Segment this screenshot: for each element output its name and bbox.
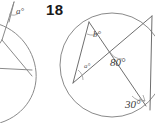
main-circle <box>60 13 155 117</box>
angle-a-label: a° <box>84 62 91 70</box>
problem-number: 18 <box>46 2 64 17</box>
left-chord-2 <box>9 2 14 22</box>
angle-30-label: 30° <box>124 98 141 110</box>
angle-b-label: b° <box>93 29 102 39</box>
left-chord-5 <box>0 40 2 58</box>
left-partial-figure: a° <box>0 2 36 123</box>
angle-80-label: 80° <box>110 56 126 68</box>
left-angle-a-label: a° <box>16 6 25 16</box>
left-circle-arc <box>0 22 36 123</box>
geometry-figure-svg: a° b° a° 80° <box>0 0 155 123</box>
figure-page: a° b° a° 80° <box>0 0 155 123</box>
chord-left-to-topright <box>73 16 152 83</box>
left-chord-4 <box>0 68 32 70</box>
circle-figure: b° a° 80° 30° <box>60 13 155 117</box>
left-chord-3 <box>2 40 32 76</box>
